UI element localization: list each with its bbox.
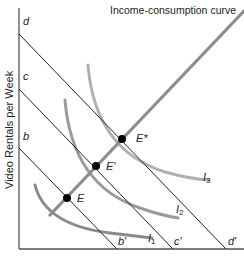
label-i3: I3 <box>203 172 211 185</box>
label-b: b <box>23 131 29 142</box>
label-i2: I2 <box>176 204 184 217</box>
label-e-prime: E' <box>106 161 115 172</box>
label-i3-sub: 3 <box>206 176 210 185</box>
label-c-prime: c' <box>174 236 182 247</box>
equilibrium-point-e-star <box>118 135 126 143</box>
equilibrium-point-e-prime <box>92 162 100 170</box>
income-consumption-curve <box>50 11 244 215</box>
label-b-prime: b' <box>118 236 126 247</box>
label-d-prime: d' <box>228 236 236 247</box>
label-i1-sub: 1 <box>151 237 155 246</box>
label-e-star: E* <box>136 133 148 144</box>
diagram-canvas <box>0 0 244 258</box>
label-i2-sub: 2 <box>179 208 183 217</box>
label-e: E <box>77 193 84 204</box>
label-c: c <box>23 71 29 82</box>
equilibrium-point-e <box>63 194 71 202</box>
y-axis-label: Video Rentals per Week <box>3 71 15 189</box>
label-i1: I1 <box>148 233 156 246</box>
income-consumption-curve-label: Income-consumption curve <box>110 4 236 16</box>
label-d: d <box>23 16 29 27</box>
